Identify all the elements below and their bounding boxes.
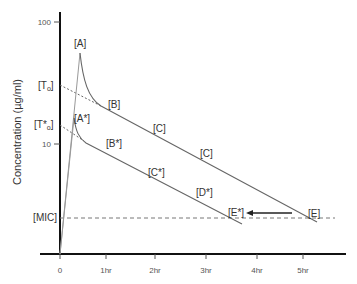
label-Astar: [A*] — [74, 113, 90, 124]
label-A: [A] — [74, 38, 86, 49]
label-C2: [C] — [200, 148, 213, 159]
label-Estar: [E*] — [228, 207, 244, 218]
x-tick-label-0: 0 — [58, 266, 63, 275]
t0-extrapolation-line — [60, 85, 101, 106]
absorption-line-low — [60, 118, 74, 254]
t0-label: [To] — [38, 80, 54, 92]
x-tick-label-1hr: 1hr — [100, 266, 112, 275]
x-tick-label-4hr: 4hr — [251, 266, 263, 275]
mic-label: [MIC] — [33, 212, 57, 223]
shift-arrow-head — [246, 210, 253, 216]
label-E: [E] — [308, 208, 320, 219]
x-tick-label-3hr: 3hr — [200, 266, 212, 275]
y-tick-label-100: 100 — [38, 18, 52, 27]
y-axis-label: Concentration (µg/ml) — [11, 79, 23, 185]
label-C1: [C] — [153, 123, 166, 134]
label-B: [B] — [108, 99, 120, 110]
y-tick-label-10: 10 — [42, 140, 51, 149]
x-tick-label-5hr: 5hr — [297, 266, 309, 275]
label-Cstar: [C*] — [148, 167, 165, 178]
x-tick-label-2hr: 2hr — [149, 266, 161, 275]
label-Dstar: [D*] — [196, 187, 213, 198]
t0star-label: [T*o] — [34, 119, 54, 131]
pk-chart: Concentration (µg/ml) 100 10 0 1hr 2hr 3… — [0, 0, 357, 284]
label-Bstar: [B*] — [106, 138, 122, 149]
